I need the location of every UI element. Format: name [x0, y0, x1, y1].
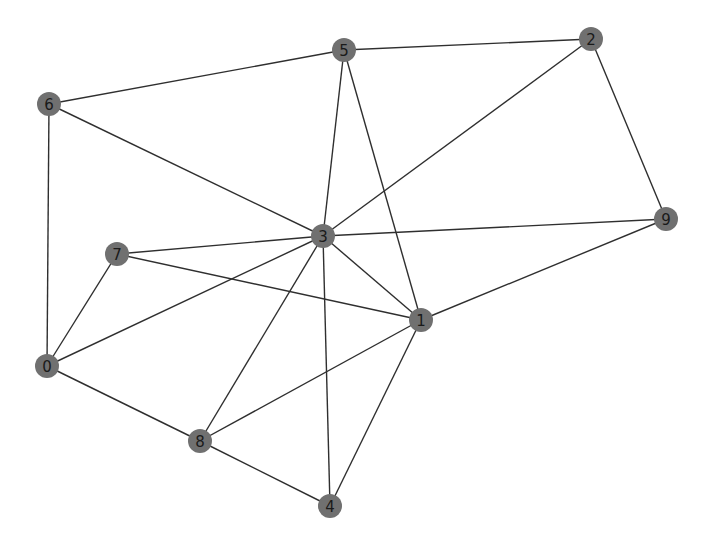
edge-3-9	[323, 219, 666, 236]
edge-1-3	[323, 236, 421, 320]
node-label: 0	[42, 358, 52, 376]
edge-8-4	[200, 441, 330, 506]
edge-0-6	[47, 104, 49, 366]
edge-0-8	[47, 366, 200, 441]
edge-3-6	[49, 104, 323, 236]
node-6: 6	[37, 92, 61, 116]
node-1: 1	[409, 308, 433, 332]
node-9: 9	[654, 207, 678, 231]
node-0: 0	[35, 354, 59, 378]
node-label: 9	[661, 211, 671, 229]
node-2: 2	[579, 27, 603, 51]
node-label: 4	[325, 498, 335, 516]
edge-1-7	[117, 254, 421, 320]
node-3: 3	[311, 224, 335, 248]
node-label: 7	[112, 246, 122, 264]
network-graph: 0123456789	[0, 0, 709, 549]
edge-1-5	[344, 50, 421, 320]
edge-1-8	[200, 320, 421, 441]
node-label: 2	[586, 31, 596, 49]
edge-2-5	[344, 39, 591, 50]
node-label: 3	[318, 228, 328, 246]
edge-2-3	[323, 39, 591, 236]
node-8: 8	[188, 429, 212, 453]
node-label: 1	[416, 312, 426, 330]
node-7: 7	[105, 242, 129, 266]
edge-5-6	[49, 50, 344, 104]
node-label: 8	[195, 433, 205, 451]
node-label: 5	[339, 42, 349, 60]
edge-2-9	[591, 39, 666, 219]
node-5: 5	[332, 38, 356, 62]
node-label: 6	[44, 96, 54, 114]
edges-layer	[47, 39, 666, 506]
nodes-layer: 0123456789	[35, 27, 678, 518]
edge-3-8	[200, 236, 323, 441]
edge-1-4	[330, 320, 421, 506]
node-4: 4	[318, 494, 342, 518]
edge-3-5	[323, 50, 344, 236]
edge-1-9	[421, 219, 666, 320]
